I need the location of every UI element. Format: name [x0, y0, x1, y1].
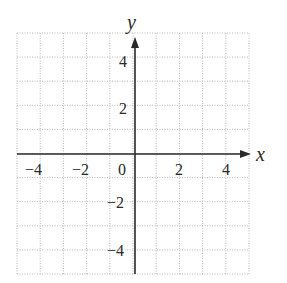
x-tick-label-neg4: −4 — [25, 162, 42, 178]
x-tick-label-zero: 0 — [118, 162, 126, 178]
y-axis-label: y — [127, 12, 136, 32]
y-tick-label-neg4: −4 — [107, 243, 124, 259]
coordinate-plane — [0, 0, 287, 283]
x-tick-label-pos2: 2 — [175, 162, 183, 178]
x-tick-label-neg2: −2 — [72, 162, 89, 178]
y-axis-arrow-icon — [131, 37, 139, 48]
x-axis-label: x — [256, 144, 265, 164]
x-tick-label-pos4: 4 — [222, 162, 230, 178]
y-tick-label-neg2: −2 — [107, 195, 124, 211]
y-tick-label-pos4: 4 — [119, 54, 127, 70]
x-axis — [17, 150, 251, 158]
y-axis — [131, 37, 139, 274]
y-tick-label-pos2: 2 — [119, 101, 127, 117]
